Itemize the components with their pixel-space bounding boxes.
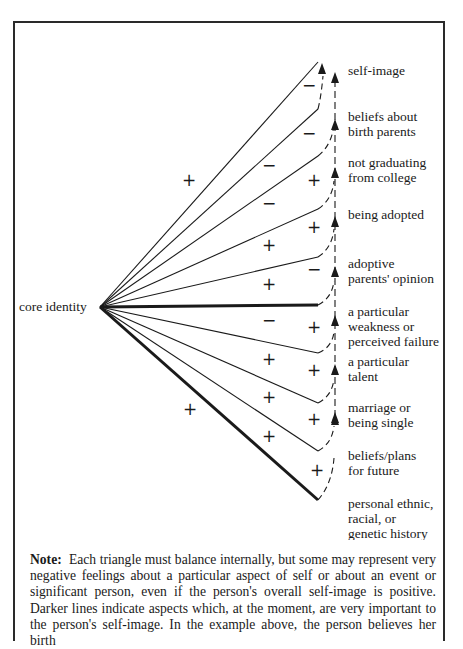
branch-label-beliefs-birth-parents: beliefs aboutbirth parents [348,109,418,139]
minus-sign: − [302,75,316,95]
branch-line-not-graduating [100,156,318,307]
plus-sign: + [262,426,276,446]
dashed-arcs [318,76,335,500]
minus-sign: − [262,155,276,175]
identity-balance-diagram: +−−−+−++−+−++++++++ self-imagebeliefs ab… [0,0,463,540]
plus-sign: + [183,399,197,419]
fan-lines [100,62,318,500]
plus-sign: + [307,217,321,237]
branch-label-particular-talent: a particulartalent [348,354,410,384]
branch-label-ethnic-history: personal ethnic,racial, orgenetic histor… [348,496,433,540]
minus-sign: − [302,123,316,143]
note-text: Each triangle must balance internally, b… [30,552,436,648]
branch-line-ethnic-history [100,307,318,500]
triangle-arrowhead-icon [318,63,326,74]
plus-sign: + [307,409,321,429]
branch-line-self-image [100,62,318,307]
branch-label-self-image: self-image [348,63,405,78]
triangle-arrowhead-icon [331,412,339,423]
core-identity-label: core identity [19,299,87,314]
dashed-connector [318,426,334,451]
branch-labels: self-imagebeliefs aboutbirth parentsnot … [348,63,439,540]
plus-sign: + [262,274,276,294]
plus-sign: + [307,170,321,190]
plus-sign: + [307,317,321,337]
minus-sign: − [262,193,276,213]
triangle-arrowhead-icon [331,315,339,326]
triangle-arrowhead-icon [331,119,339,130]
triangle-arrowhead-icon [331,364,339,375]
dashed-connector [318,76,323,109]
note-lead: Note: [30,552,62,567]
branch-line-beliefs-plans-future [100,307,318,451]
plus-sign: + [310,460,324,480]
minus-sign: − [262,310,276,330]
branch-line-marriage-single [100,307,318,403]
branch-label-particular-weakness: a particularweakness orperceived failure [348,304,439,349]
plus-sign: + [307,360,321,380]
branch-label-adoptive-parents-opinion: adoptiveparents' opinion [348,256,434,286]
triangle-arrowhead-icon [331,72,339,83]
branch-line-beliefs-birth-parents [100,109,318,307]
plus-sign: + [182,170,196,190]
branch-line-being-adopted [100,209,318,307]
triangle-arrowhead-icon [331,167,339,178]
branch-line-particular-talent [100,307,318,353]
plus-sign: + [262,235,276,255]
dashed-connector [318,379,334,403]
note-paragraph: Note: Each triangle must balance interna… [30,552,436,649]
plus-sign: + [262,349,276,369]
minus-sign: − [307,259,321,279]
triangle-arrowhead-icon [331,216,339,227]
branch-line-adoptive-parents-opinion [100,257,318,307]
branch-label-not-graduating: not graduatingfrom college [348,155,427,185]
branch-line-particular-weakness [100,305,318,307]
dashed-connector [318,281,334,305]
branch-label-being-adopted: being adopted [348,207,424,222]
branch-label-beliefs-plans-future: beliefs/plansfor future [348,448,416,478]
branch-label-marriage-single: marriage orbeing single [348,400,414,430]
arrowheads [318,63,339,425]
triangle-arrowhead-icon [331,266,339,277]
plus-sign: + [262,387,276,407]
